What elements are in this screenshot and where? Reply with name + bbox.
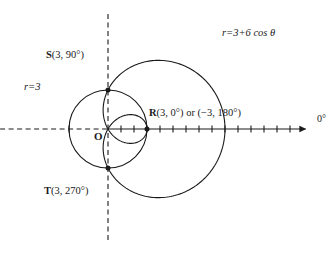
circle-equation-label: r=3 [24,82,40,93]
polar-plot-svg [0,0,335,254]
origin-label: O [94,131,103,142]
polar-graph-figure: r=3+6 cos θ r=3 S(3, 90°) T(3, 270°) R(3… [0,0,335,254]
point-marker-s [106,88,111,93]
point-r-name: R [149,107,157,118]
point-marker-r [145,127,150,132]
polar-axis-arrowhead [300,126,306,132]
point-t-coords: (3, 270°) [51,185,88,196]
point-label-s: S(3, 90°) [46,50,84,61]
polar-axis-angle-label: 0° [317,114,326,124]
limacon-equation-label: r=3+6 cos θ [222,28,275,39]
point-r-coords: (3, 0°) or (−3, 180°) [157,107,241,118]
point-label-r: R(3, 0°) or (−3, 180°) [149,108,241,119]
point-s-coords: (3, 90°) [52,49,84,60]
point-marker-t [106,166,111,171]
point-t-name: T [44,185,51,196]
point-label-t: T(3, 270°) [44,186,88,197]
